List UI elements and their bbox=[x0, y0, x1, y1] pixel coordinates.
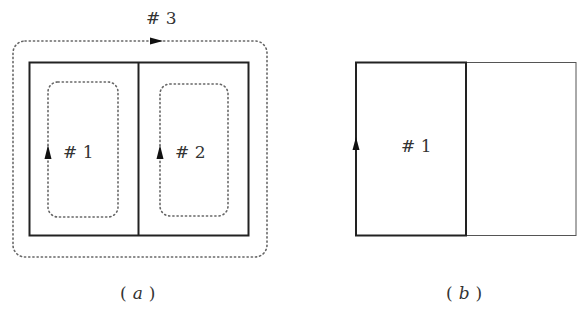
loop-1-arrow-icon bbox=[45, 145, 52, 159]
circuit-right-mesh-b bbox=[466, 63, 576, 236]
diagram-canvas: # 3 # 1 # 2 (a) # 1 (b) bbox=[0, 0, 584, 322]
loop-1-arrow-icon-b bbox=[353, 137, 360, 150]
loop-1-label: # 1 bbox=[63, 142, 93, 162]
loop-3-label: # 3 bbox=[146, 8, 176, 28]
figure-b: # 1 (b) bbox=[353, 63, 577, 304]
loop-3-arrow-icon bbox=[150, 38, 163, 45]
caption-b: (b) bbox=[446, 283, 482, 303]
caption-a: (a) bbox=[120, 283, 155, 303]
loop-1-label-b: # 1 bbox=[401, 136, 431, 156]
loop-2-label: # 2 bbox=[175, 142, 205, 162]
figure-a: # 3 # 1 # 2 (a) bbox=[13, 8, 267, 303]
loop-3-path bbox=[13, 41, 267, 257]
loop-2-arrow-icon bbox=[157, 145, 164, 159]
